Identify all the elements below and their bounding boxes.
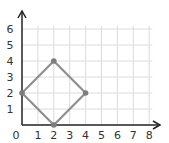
x-tick-label: 6	[114, 129, 121, 142]
y-tick-label: 6	[7, 23, 14, 36]
coordinate-plane: 012345678 123456	[0, 0, 169, 143]
y-tick-label: 3	[7, 71, 14, 84]
y-tick-label: 2	[7, 87, 14, 100]
x-tick-label: 8	[146, 129, 153, 142]
x-tick-label: 5	[98, 129, 105, 142]
vertex-point	[83, 90, 89, 96]
x-tick-label: 2	[50, 129, 57, 142]
x-tick-label: 3	[66, 129, 73, 142]
x-tick-label: 0	[13, 129, 20, 142]
y-tick-label: 1	[7, 103, 14, 116]
vertex-point	[19, 90, 25, 96]
x-tick-label: 1	[34, 129, 41, 142]
y-tick-label: 4	[7, 55, 14, 68]
y-tick-label: 5	[7, 39, 14, 52]
vertex-point	[51, 122, 57, 128]
grid-lines	[22, 26, 152, 125]
y-tick-labels: 123456	[7, 23, 14, 116]
x-tick-label: 7	[130, 129, 137, 142]
x-tick-label: 4	[82, 129, 89, 142]
x-tick-labels: 012345678	[13, 129, 153, 142]
vertex-point	[51, 58, 57, 64]
